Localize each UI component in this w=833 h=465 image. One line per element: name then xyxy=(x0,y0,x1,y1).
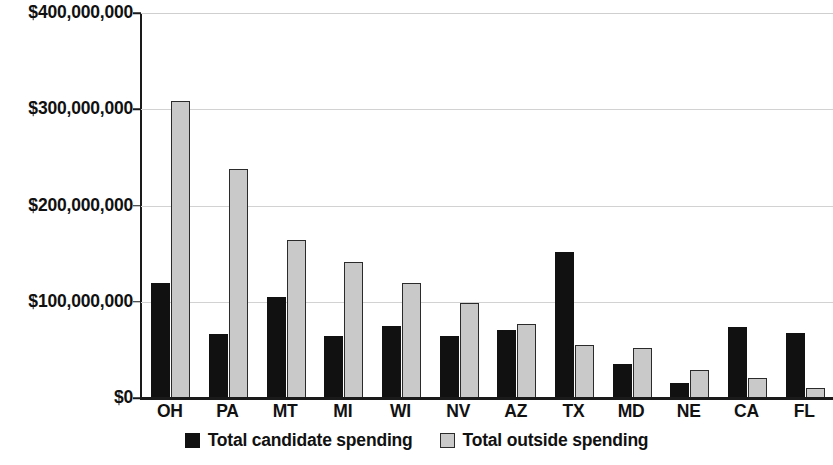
y-axis-tick xyxy=(133,109,141,111)
bar-group xyxy=(555,13,594,398)
x-axis-tick-label: CA xyxy=(718,401,776,423)
y-axis-tick-label: $300,000,000 xyxy=(0,101,133,119)
x-axis-tick-label: NE xyxy=(660,401,718,423)
bar-group xyxy=(267,13,306,398)
bar-group xyxy=(324,13,363,398)
bar-candidate-spending[interactable] xyxy=(267,297,286,398)
bars-layer xyxy=(141,13,833,398)
bar-group xyxy=(728,13,767,398)
x-axis-labels: OHPAMTMIWINVAZTXMDNECAFL xyxy=(141,401,833,427)
bar-candidate-spending[interactable] xyxy=(497,330,516,398)
bar-candidate-spending[interactable] xyxy=(555,252,574,398)
x-axis-tick-label: MD xyxy=(602,401,660,423)
y-axis-tick xyxy=(133,205,141,207)
bar-outside-spending[interactable] xyxy=(344,262,363,398)
bar-group xyxy=(786,13,825,398)
bar-outside-spending[interactable] xyxy=(402,283,421,399)
bar-outside-spending[interactable] xyxy=(287,240,306,398)
legend-label-outside: Total outside spending xyxy=(463,432,649,450)
bar-group xyxy=(613,13,652,398)
x-axis-tick-label: WI xyxy=(372,401,430,423)
bar-group xyxy=(151,13,190,398)
bar-candidate-spending[interactable] xyxy=(786,333,805,398)
y-axis-tick-label: $0 xyxy=(0,389,133,407)
x-axis-tick-label: PA xyxy=(199,401,257,423)
bar-outside-spending[interactable] xyxy=(229,169,248,398)
bar-group xyxy=(382,13,421,398)
chart-legend: Total candidate spending Total outside s… xyxy=(0,432,833,450)
bar-outside-spending[interactable] xyxy=(690,370,709,398)
y-axis-labels: $0$100,000,000$200,000,000$300,000,000$4… xyxy=(0,0,133,465)
legend-item-outside: Total outside spending xyxy=(440,432,649,450)
x-axis-line xyxy=(140,397,833,400)
bar-outside-spending[interactable] xyxy=(575,345,594,398)
y-axis-tick-label: $100,000,000 xyxy=(0,293,133,311)
bar-candidate-spending[interactable] xyxy=(670,383,689,398)
bar-outside-spending[interactable] xyxy=(633,348,652,398)
bar-outside-spending[interactable] xyxy=(171,101,190,398)
bar-candidate-spending[interactable] xyxy=(382,326,401,398)
bar-outside-spending[interactable] xyxy=(460,303,479,398)
bar-group xyxy=(497,13,536,398)
y-axis-tick xyxy=(133,301,141,303)
y-axis-tick-label: $400,000,000 xyxy=(0,4,133,22)
y-axis-tick-label: $200,000,000 xyxy=(0,197,133,215)
bar-group xyxy=(440,13,479,398)
bar-outside-spending[interactable] xyxy=(517,324,536,398)
bar-group xyxy=(209,13,248,398)
bar-candidate-spending[interactable] xyxy=(613,364,632,398)
bar-candidate-spending[interactable] xyxy=(209,334,228,398)
bar-candidate-spending[interactable] xyxy=(440,336,459,398)
bar-candidate-spending[interactable] xyxy=(324,336,343,398)
bar-chart: $0$100,000,000$200,000,000$300,000,000$4… xyxy=(0,0,833,465)
bar-candidate-spending[interactable] xyxy=(728,327,747,398)
x-axis-tick-label: MI xyxy=(314,401,372,423)
x-axis-tick-label: FL xyxy=(775,401,833,423)
x-axis-tick-label: AZ xyxy=(487,401,545,423)
y-axis-tick xyxy=(133,397,141,399)
bar-candidate-spending[interactable] xyxy=(151,283,170,399)
legend-label-candidate: Total candidate spending xyxy=(208,432,413,450)
legend-swatch-outside-icon xyxy=(440,433,455,448)
x-axis-tick-label: OH xyxy=(141,401,199,423)
x-axis-tick-label: TX xyxy=(545,401,603,423)
y-axis-tick xyxy=(133,12,141,14)
bar-group xyxy=(670,13,709,398)
legend-swatch-candidate-icon xyxy=(185,433,200,448)
bar-outside-spending[interactable] xyxy=(748,378,767,398)
x-axis-tick-label: NV xyxy=(429,401,487,423)
x-axis-tick-label: MT xyxy=(256,401,314,423)
legend-item-candidate: Total candidate spending xyxy=(185,432,413,450)
